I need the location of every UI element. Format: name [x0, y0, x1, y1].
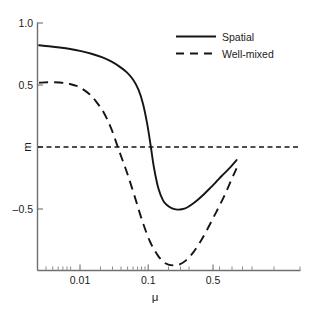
series-line-spatial: [39, 45, 237, 209]
y-tick-label-1: 1.0: [18, 17, 33, 29]
y-tick-label-2: 0.5: [18, 79, 33, 91]
chart-legend: Spatial Well-mixed: [176, 31, 274, 60]
series-line-well-mixed: [39, 82, 237, 265]
legend-label-well-mixed: Well-mixed: [222, 48, 274, 60]
x-axis-title: μ: [152, 291, 159, 303]
y-tick-label-4: –0.5: [13, 203, 34, 215]
x-tick-label-2: 0.1: [141, 274, 156, 286]
chart-canvas: 1.0 0.5 m –0.5: [0, 0, 312, 312]
y-axis-title: m: [21, 142, 33, 152]
legend-label-spatial: Spatial: [222, 31, 254, 43]
chart-figure: 1.0 0.5 m –0.5: [0, 0, 312, 312]
x-tick-label-3: 0.5: [206, 274, 221, 286]
y-tick-marks: [38, 23, 44, 209]
x-tick-label-1: 0.01: [70, 274, 91, 286]
x-major-tick-marks: [80, 265, 213, 271]
